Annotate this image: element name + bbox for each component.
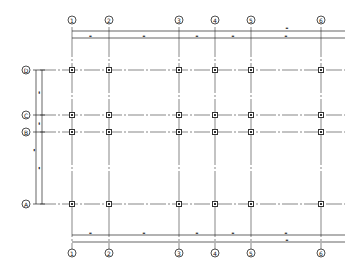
structural-column-core [108, 131, 110, 133]
structural-column-core [71, 69, 73, 71]
dimension-lines: ▬▬▬▬▬▬▬▬▬▬▬▬▬▬▬▬ [32, 26, 346, 242]
structural-column-core [71, 203, 73, 205]
top-dimension-label: ▬ [196, 34, 199, 38]
row-axis-label: B [24, 129, 28, 136]
left-dimension-label: ▬ [37, 166, 41, 169]
top-dimension-label: ▬ [285, 34, 288, 38]
bottom-dimension-label: ▬ [232, 231, 235, 235]
left-dimension-label: ▬ [37, 122, 41, 125]
structural-column-core [214, 69, 216, 71]
structural-column-core [250, 114, 252, 116]
structural-column-core [214, 131, 216, 133]
structural-column-core [108, 69, 110, 71]
structural-column-core [320, 131, 322, 133]
bottom-dimension-label: ▬ [89, 231, 92, 235]
grid-lines [40, 27, 345, 250]
bottom-dimension-label: ▬ [143, 231, 146, 235]
bottom-dimension-label: ▬ [285, 231, 288, 235]
axis-labels: 112233445566DCBA [22, 16, 325, 257]
column-axis-label: 1 [70, 17, 74, 24]
structural-column-core [108, 203, 110, 205]
structural-column-core [71, 131, 73, 133]
column-axis-label: 2 [107, 17, 111, 24]
row-axis-label: C [24, 112, 28, 119]
structural-grid-plan: ▬▬▬▬▬▬▬▬▬▬▬▬▬▬▬▬ 112233445566DCBA [0, 0, 363, 276]
column-axis-label: 1 [70, 250, 74, 257]
structural-column-core [250, 131, 252, 133]
top-dimension-label: ▬ [232, 34, 235, 38]
row-axis-label: D [24, 67, 29, 74]
column-axis-label: 3 [177, 250, 181, 257]
column-axis-label: 3 [177, 17, 181, 24]
bottom-dimension-label: ▬ [196, 231, 199, 235]
column-axis-label: 2 [107, 250, 111, 257]
structural-column-core [250, 203, 252, 205]
top-overall-dimension-label: ▬ [286, 26, 289, 30]
structural-column-core [320, 203, 322, 205]
column-axis-label: 6 [319, 17, 323, 24]
structural-column-core [178, 69, 180, 71]
top-dimension-label: ▬ [89, 34, 92, 38]
top-dimension-label: ▬ [143, 34, 146, 38]
structural-column-core [178, 203, 180, 205]
structural-column-core [214, 114, 216, 116]
column-axis-label: 4 [213, 250, 217, 257]
column-axis-label: 6 [319, 250, 323, 257]
structural-column-core [178, 114, 180, 116]
structural-column-core [250, 69, 252, 71]
structural-column-core [320, 69, 322, 71]
column-axis-label: 5 [249, 17, 253, 24]
bottom-overall-dimension-label: ▬ [286, 238, 289, 242]
structural-column-core [178, 131, 180, 133]
structural-column-core [214, 203, 216, 205]
left-dimension-label: ▬ [37, 91, 41, 94]
structural-column-core [71, 114, 73, 116]
structural-column-core [320, 114, 322, 116]
column-axis-label: 4 [213, 17, 217, 24]
structural-column-core [108, 114, 110, 116]
structural-columns [70, 68, 324, 207]
column-axis-label: 5 [249, 250, 253, 257]
left-overall-dimension-label: ▬ [32, 148, 36, 151]
